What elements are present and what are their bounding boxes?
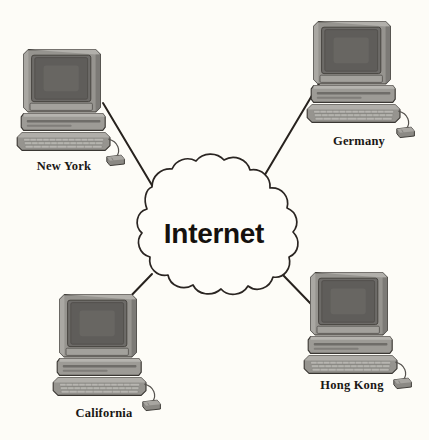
desktop-computer-icon	[53, 295, 160, 411]
network-diagram: Internet New York Germany California	[0, 0, 429, 440]
node-label-california: California	[76, 406, 133, 420]
desktop-computer-icon	[304, 273, 411, 389]
node-germany[interactable]: Germany	[307, 22, 414, 148]
desktop-computer-icon	[17, 50, 124, 166]
desktop-computer-icon	[307, 22, 414, 138]
diagram-canvas: Internet New York Germany California	[0, 0, 429, 440]
cloud-label: Internet	[164, 218, 264, 249]
internet-cloud[interactable]: Internet	[137, 154, 298, 294]
node-hong-kong[interactable]: Hong Kong	[304, 273, 411, 392]
node-label-hong-kong: Hong Kong	[320, 378, 384, 392]
node-label-germany: Germany	[333, 134, 386, 148]
node-california[interactable]: California	[53, 295, 160, 420]
connector-hong-kong	[282, 274, 311, 304]
node-label-new-york: New York	[37, 159, 91, 173]
